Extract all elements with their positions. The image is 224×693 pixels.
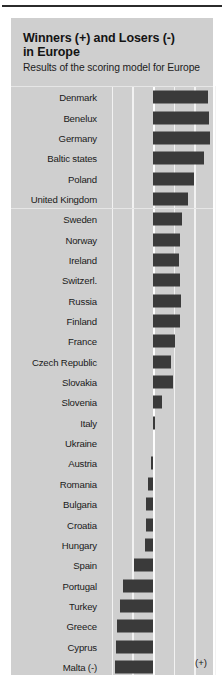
top-divider-rule <box>2 5 222 7</box>
chart-row: Russia <box>11 291 213 311</box>
chart-bar <box>153 294 181 307</box>
chart-figure-panel: Winners (+) and Losers (-) in Europe Res… <box>11 18 213 675</box>
chart-title-line2: in Europe <box>23 45 80 59</box>
chart-row: United Kingdom <box>11 189 213 209</box>
row-label: Slovenia <box>61 397 97 408</box>
chart-bar <box>116 640 153 653</box>
chart-bar <box>148 477 153 490</box>
row-label: Russia <box>69 295 97 306</box>
row-label: Turkey <box>69 600 97 611</box>
chart-row: Denmark <box>11 87 213 107</box>
chart-row: Bulgaria <box>11 494 213 514</box>
chart-row: Poland <box>11 168 213 188</box>
gridline <box>215 86 216 675</box>
axis-positive-sign: (+) <box>195 657 207 668</box>
chart-row: France <box>11 331 213 351</box>
chart-plot-area: DenmarkBeneluxGermanyBaltic statesPoland… <box>11 86 213 675</box>
row-label: Czech Republic <box>32 356 97 367</box>
chart-bar <box>153 213 182 226</box>
row-label: Greece <box>66 621 97 632</box>
chart-bar <box>134 559 153 572</box>
chart-row: Croatia <box>11 514 213 534</box>
chart-bar <box>146 518 153 531</box>
chart-row: Switzerl. <box>11 270 213 290</box>
chart-row: Greece <box>11 616 213 636</box>
row-label: Austria <box>68 458 97 469</box>
chart-row: Slovenia <box>11 392 213 412</box>
row-label: Benelux <box>63 112 97 123</box>
row-label: Baltic states <box>47 153 97 164</box>
row-label: Portugal <box>62 580 97 591</box>
row-label: Cyprus <box>68 641 98 652</box>
chart-row: Cyprus <box>11 636 213 656</box>
chart-row: Malta (-) <box>11 657 213 677</box>
chart-row: Spain <box>11 555 213 575</box>
chart-row: Hungary <box>11 535 213 555</box>
chart-subtitle: Results of the scoring model for Europe <box>23 62 209 74</box>
row-label: Slovakia <box>62 377 97 388</box>
row-label: Bulgaria <box>63 499 97 510</box>
page-title: Winners (+) and Losers (-) in Europe <box>23 32 209 59</box>
chart-row: Austria <box>11 453 213 473</box>
row-label: Finland <box>67 316 97 327</box>
chart-bar <box>153 253 179 266</box>
chart-bar <box>153 91 208 104</box>
chart-bar <box>151 457 153 470</box>
chart-row: Czech Republic <box>11 352 213 372</box>
chart-row: Benelux <box>11 107 213 127</box>
chart-row: Sweden <box>11 209 213 229</box>
chart-bar <box>153 274 180 287</box>
chart-rows: DenmarkBeneluxGermanyBaltic statesPoland… <box>11 86 213 675</box>
chart-row: Italy <box>11 413 213 433</box>
chart-title-line1: Winners (+) and Losers (-) <box>23 31 175 45</box>
chart-bar <box>153 152 204 165</box>
row-label: Ukraine <box>65 438 97 449</box>
row-label: Malta (-) <box>63 661 97 672</box>
row-label: United Kingdom <box>31 193 97 204</box>
chart-bar <box>153 131 210 144</box>
row-label: Norway <box>65 234 97 245</box>
row-label: Romania <box>60 478 97 489</box>
chart-bar <box>146 498 153 511</box>
chart-bar <box>153 355 171 368</box>
row-label: Germany <box>59 132 97 143</box>
chart-row: Romania <box>11 474 213 494</box>
row-label: Poland <box>68 173 97 184</box>
chart-row: Portugal <box>11 575 213 595</box>
chart-bar <box>115 660 153 673</box>
chart-bar <box>153 376 173 389</box>
chart-row: Slovakia <box>11 372 213 392</box>
chart-row: Norway <box>11 229 213 249</box>
row-label: Croatia <box>67 519 97 530</box>
chart-bar <box>153 396 162 409</box>
row-label: France <box>68 336 97 347</box>
chart-bar <box>153 315 180 328</box>
chart-row: Ireland <box>11 250 213 270</box>
row-label: Spain <box>73 560 97 571</box>
row-label: Sweden <box>63 214 97 225</box>
chart-bar <box>153 335 175 348</box>
row-label: Italy <box>80 417 97 428</box>
chart-bar <box>145 538 153 551</box>
chart-header: Winners (+) and Losers (-) in Europe Res… <box>23 32 209 74</box>
row-label: Ireland <box>69 254 97 265</box>
chart-bar <box>153 192 188 205</box>
chart-bar <box>123 579 153 592</box>
chart-row: Baltic states <box>11 148 213 168</box>
chart-row: Turkey <box>11 596 213 616</box>
row-label: Switzerl. <box>62 275 97 286</box>
chart-bar <box>153 172 194 185</box>
chart-bar <box>120 599 153 612</box>
row-label: Hungary <box>62 539 97 550</box>
chart-row: Ukraine <box>11 433 213 453</box>
chart-bar <box>153 233 180 246</box>
chart-bar <box>153 416 155 429</box>
row-label: Denmark <box>59 92 97 103</box>
chart-bar <box>153 111 209 124</box>
chart-row: Germany <box>11 128 213 148</box>
chart-row: Finland <box>11 311 213 331</box>
chart-bar <box>117 620 153 633</box>
